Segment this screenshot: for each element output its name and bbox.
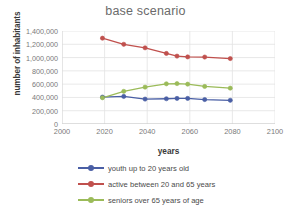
legend-swatch-icon	[78, 163, 104, 173]
y-axis-tick: 200,000	[32, 106, 58, 115]
x-axis-label: years	[62, 146, 275, 156]
x-axis-tick: 2040	[139, 127, 155, 136]
x-axis-tick: 2020	[96, 127, 112, 136]
chart-title: base scenario	[0, 4, 291, 18]
data-point-marker	[203, 55, 207, 59]
data-point-marker	[143, 46, 147, 50]
legend-item[interactable]: active between 20 and 65 years	[0, 176, 291, 192]
x-axis-tick: 2100	[267, 127, 283, 136]
data-point-marker	[175, 96, 179, 100]
data-point-marker	[122, 94, 126, 98]
plot-area	[62, 31, 275, 124]
y-axis-tick: 1,200,000	[26, 40, 58, 49]
data-point-marker	[164, 51, 168, 55]
data-point-marker	[228, 56, 232, 60]
data-point-marker	[186, 96, 190, 100]
legend-item[interactable]: seniors over 65 years of age	[0, 192, 291, 208]
data-point-marker	[175, 54, 179, 58]
y-axis-tick: 600,000	[32, 80, 58, 89]
y-axis-tick: 400,000	[32, 93, 58, 102]
y-axis-tick: 800,000	[32, 66, 58, 75]
data-point-marker	[164, 97, 168, 101]
data-point-marker	[228, 86, 232, 90]
legend-swatch-icon	[78, 179, 104, 189]
plot-svg	[62, 31, 275, 124]
y-axis-tick-labels: 0200,000400,000600,000800,0001,000,0001,…	[0, 31, 58, 124]
data-point-marker	[100, 36, 104, 40]
data-point-marker	[122, 42, 126, 46]
y-axis-tick: 1,000,000	[26, 53, 58, 62]
data-point-marker	[164, 82, 168, 86]
legend-label: youth up to 20 years old	[108, 164, 189, 173]
data-point-marker	[228, 98, 232, 102]
chart-legend: youth up to 20 years oldactive between 2…	[0, 160, 291, 208]
legend-item[interactable]: youth up to 20 years old	[0, 160, 291, 176]
plot-background	[62, 31, 275, 124]
legend-swatch-icon	[78, 195, 104, 205]
data-point-marker	[175, 82, 179, 86]
data-point-marker	[186, 55, 190, 59]
y-axis-tick: 1,400,000	[26, 27, 58, 36]
data-point-marker	[143, 97, 147, 101]
data-point-marker	[203, 97, 207, 101]
data-point-marker	[203, 84, 207, 88]
chart-container: base scenario number of inhabitants 0200…	[0, 0, 291, 213]
data-point-marker	[100, 96, 104, 100]
x-axis-tick: 2000	[54, 127, 70, 136]
x-axis-tick: 2060	[182, 127, 198, 136]
data-point-marker	[122, 89, 126, 93]
data-point-marker	[186, 82, 190, 86]
x-axis-tick: 2080	[224, 127, 240, 136]
data-point-marker	[143, 85, 147, 89]
legend-label: active between 20 and 65 years	[108, 180, 215, 189]
legend-label: seniors over 65 years of age	[108, 196, 204, 205]
